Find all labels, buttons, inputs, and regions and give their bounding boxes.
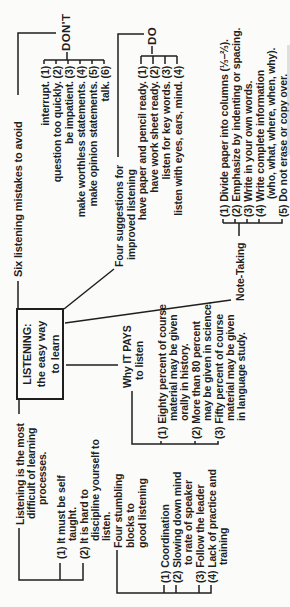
mistakes-label: Six listening mistakes to avoid	[12, 121, 24, 277]
dont-item-5: make opinion statements. (5)	[87, 66, 99, 207]
do-item-3: listen for key words. (3)	[160, 66, 172, 180]
do-item-2: have work sheet ready. (2)	[148, 66, 160, 193]
dont-item-1: interrupt. (1)	[39, 66, 51, 126]
pays-label-line2: to listen	[133, 341, 145, 380]
stumbling-item-4-line2: training	[217, 528, 229, 565]
do-tag: DO	[146, 27, 158, 45]
suggestions-label-line1: Four suggestions for	[113, 165, 125, 267]
stumbling-label-line3: good listening	[136, 478, 148, 548]
notetaking-item-1: (1) Divide paper into columns (⅓–⅔).	[218, 39, 230, 217]
dont-item-6: talk. (6)	[99, 66, 111, 101]
notetaking-item-4-line2: (who, what, where, when, why).	[265, 48, 277, 199]
box-title: LISTENING:	[20, 310, 34, 398]
stumbling-item-1: (1) Coordination	[159, 504, 171, 583]
stumbling-item-2-line2: to rate of speaker	[182, 480, 194, 565]
pays-item-3-line3: in language study.	[235, 332, 247, 421]
listening-diagram: LISTENING: the easy way to learn Listeni…	[0, 0, 290, 607]
scan-artifact	[287, 45, 290, 155]
difficult-item-1-line2: taught.	[66, 507, 78, 541]
scanned-page: LISTENING: the easy way to learn Listeni…	[0, 0, 290, 607]
difficult-item-2-line3: listen.	[100, 512, 112, 541]
pays-item-2-line2: may be given in science.	[201, 301, 213, 421]
dont-tag: DON'T	[60, 14, 72, 51]
notetaking-item-2: (2) Emphasize by indenting or spacing.	[230, 28, 242, 217]
stumbling-item-3: (3) Follow the leader	[194, 485, 206, 583]
dont-item-2: question too quickly. (2)	[51, 66, 63, 182]
dont-item-4: make worthless statements. (4)	[75, 66, 87, 217]
do-item-4: listen with eyes, ears, mind. (4)	[172, 66, 184, 216]
stumbling-label-line1: Four stumbling	[112, 474, 124, 548]
notetaking-label: Note-Taking	[234, 243, 246, 301]
difficult-label-line3: processes.	[36, 452, 48, 505]
notetaking-item-3: (3) Write in your own words.	[242, 81, 254, 217]
stumbling-item-4-line1: (4) Lack of practice and	[206, 469, 218, 583]
pays-item-1-line3: orally in history.	[178, 343, 190, 421]
box-subtitle-2: to learn	[48, 310, 62, 398]
pays-label-line1: Why IT PAYS	[121, 325, 133, 388]
central-topic-box: LISTENING: the easy way to learn	[16, 308, 64, 400]
box-subtitle-1: the easy way	[34, 310, 48, 398]
do-item-1: have paper and pencil ready. (1)	[136, 66, 148, 220]
stumbling-label-line2: blocks to	[124, 503, 136, 548]
dont-item-3: be impatient. (3)	[63, 66, 75, 144]
